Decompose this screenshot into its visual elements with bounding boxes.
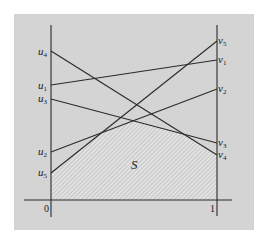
tick-1: 1	[210, 203, 215, 214]
tick-0: 0	[44, 203, 49, 214]
lines-diagram: u4 u1 u3 u2 u5 v5 v1 v2 v3 v4 S 0 1	[0, 0, 257, 240]
region-s-label: S	[131, 157, 138, 172]
